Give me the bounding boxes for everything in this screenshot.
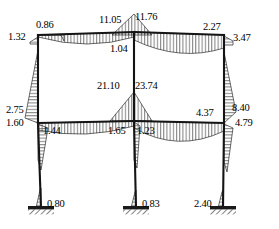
label-top-left-column-top: 1.32 bbox=[8, 32, 26, 43]
label-mid-left-column-lower: 1.60 bbox=[6, 118, 24, 129]
label-mid-right-column-lower: 4.79 bbox=[235, 118, 253, 129]
label-top-center-column-top: 1.04 bbox=[110, 44, 128, 55]
support-fixed-right bbox=[210, 206, 236, 214]
label-top-right-beam-end: 2.27 bbox=[203, 22, 221, 33]
label-top-right-column-top: 3.47 bbox=[233, 33, 251, 44]
label-mid-center-right: 23.74 bbox=[135, 81, 158, 92]
label-top-center-right: 11.76 bbox=[135, 12, 157, 23]
label-mid-left-column-upper: 2.75 bbox=[6, 105, 24, 116]
label-mid-center-left: 21.10 bbox=[97, 81, 120, 92]
label-mid-left-beam-end: 1.44 bbox=[43, 126, 61, 137]
label-mid-center-beam-right: 1.23 bbox=[137, 126, 155, 137]
label-mid-center-beam-left: 1.65 bbox=[108, 126, 126, 137]
label-base-left-moment: 0.80 bbox=[47, 199, 65, 210]
moment-diagram-lower-right-column bbox=[218, 124, 233, 208]
label-mid-right-column-upper: 8.40 bbox=[232, 103, 250, 114]
label-base-center-moment: 0.83 bbox=[142, 199, 160, 210]
label-top-center-left: 11.05 bbox=[99, 15, 121, 26]
label-base-right-moment: 2.40 bbox=[194, 199, 212, 210]
moment-diagram-mid-center-peak bbox=[110, 92, 152, 121]
bending-moment-diagram-figure: 0.86 1.32 11.05 11.76 1.04 2.27 3.47 21.… bbox=[0, 0, 279, 229]
column-lower-right bbox=[223, 123, 224, 208]
label-top-left-beam-end: 0.86 bbox=[36, 20, 54, 31]
label-mid-right-beam-end: 4.37 bbox=[196, 108, 214, 119]
moment-diagram-upper-left-column bbox=[25, 37, 38, 123]
